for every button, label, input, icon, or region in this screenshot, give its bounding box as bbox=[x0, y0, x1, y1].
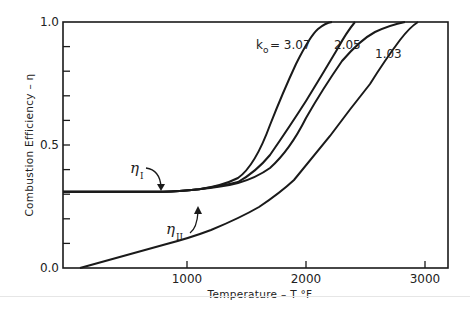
label-eta-II: η II bbox=[166, 220, 184, 242]
curves bbox=[63, 22, 418, 268]
y-axis-title: Combustion Efficiency – η bbox=[23, 73, 35, 216]
svg-text:= 3.07: = 3.07 bbox=[270, 38, 311, 52]
y-axis-ticks bbox=[63, 47, 70, 244]
label-k0-1.03: 1.03 bbox=[375, 47, 402, 61]
svg-text:II: II bbox=[176, 232, 184, 242]
svg-text:I: I bbox=[140, 171, 144, 181]
page-edge-divider bbox=[0, 296, 470, 297]
arrowhead-eta-II-icon bbox=[194, 206, 202, 214]
label-k0-2.05: 2.05 bbox=[334, 38, 361, 52]
arrow-eta-II bbox=[190, 212, 198, 233]
y-tick-label-0.5: 0.5 bbox=[40, 138, 59, 152]
curve-k0-2.05 bbox=[63, 22, 355, 192]
arrowhead-eta-I-icon bbox=[157, 184, 165, 191]
label-eta-I: η I bbox=[130, 159, 144, 181]
x-axis-title: Temperature – T °F bbox=[207, 288, 313, 300]
svg-text:η: η bbox=[166, 220, 175, 238]
x-axis-ticks bbox=[187, 261, 425, 268]
x-tick-label-3000: 3000 bbox=[410, 272, 441, 286]
curve-eta-II bbox=[80, 22, 418, 268]
svg-text:k: k bbox=[256, 38, 263, 52]
x-tick-label-1000: 1000 bbox=[172, 272, 203, 286]
svg-text:η: η bbox=[130, 159, 139, 177]
combustion-efficiency-chart: 1.0 0.5 0.0 1000 2000 3000 Temperature –… bbox=[0, 0, 470, 310]
svg-text:o: o bbox=[263, 45, 269, 55]
y-tick-label-1.0: 1.0 bbox=[40, 15, 59, 29]
x-tick-label-2000: 2000 bbox=[291, 272, 322, 286]
y-tick-label-0.0: 0.0 bbox=[40, 261, 59, 275]
